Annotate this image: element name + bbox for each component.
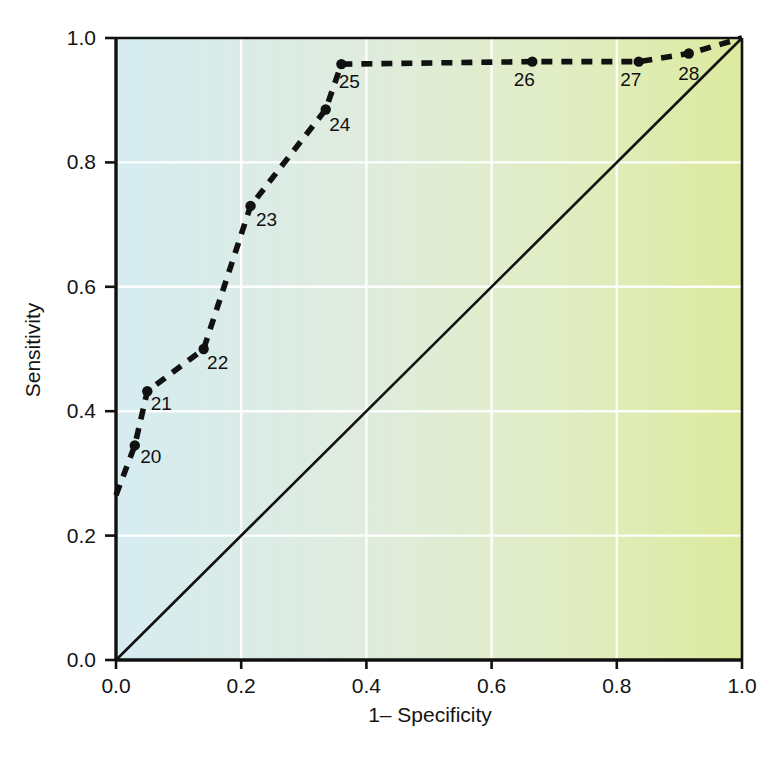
y-tick-label: 1.0: [67, 26, 96, 49]
x-tick-label: 0.0: [101, 674, 130, 697]
y-axis-tick-labels: 0.00.20.40.60.81.0: [67, 26, 97, 671]
data-point-label: 20: [140, 446, 161, 467]
roc-data-point: [245, 201, 255, 211]
x-tick-label: 0.2: [227, 674, 256, 697]
data-point-label: 28: [678, 63, 699, 84]
y-axis-title: Sensitivity: [21, 302, 44, 397]
roc-data-point: [527, 56, 537, 66]
y-tick-label: 0.6: [67, 275, 96, 298]
data-point-label: 21: [151, 393, 172, 414]
roc-data-point: [336, 59, 346, 69]
data-point-label: 27: [620, 69, 641, 90]
data-point-label: 22: [207, 352, 228, 373]
x-tick-label: 1.0: [727, 674, 756, 697]
data-point-label: 24: [329, 114, 351, 135]
roc-data-point: [684, 48, 694, 58]
y-tick-label: 0.4: [67, 399, 97, 422]
roc-chart-canvas: 0.00.20.40.60.81.0 0.00.20.40.60.81.0 20…: [0, 0, 783, 768]
x-tick-label: 0.6: [477, 674, 506, 697]
y-tick-label: 0.2: [67, 524, 96, 547]
data-point-label: 23: [256, 209, 277, 230]
roc-figure: 0.00.20.40.60.81.0 0.00.20.40.60.81.0 20…: [0, 0, 783, 768]
data-point-label: 26: [514, 69, 535, 90]
x-tick-label: 0.8: [602, 674, 631, 697]
x-tick-label: 0.4: [352, 674, 382, 697]
roc-data-point: [634, 56, 644, 66]
y-tick-label: 0.0: [67, 648, 96, 671]
x-axis-title: 1– Specificity: [368, 703, 492, 726]
x-axis-tick-labels: 0.00.20.40.60.81.0: [101, 674, 756, 697]
roc-data-point: [130, 440, 140, 450]
data-point-label: 25: [339, 71, 360, 92]
y-tick-label: 0.8: [67, 150, 96, 173]
